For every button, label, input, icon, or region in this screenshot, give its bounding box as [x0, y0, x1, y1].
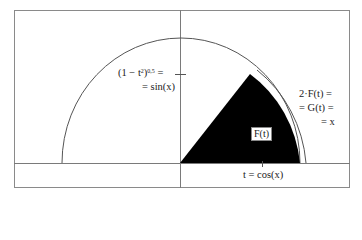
- t-label: t = cos(x): [243, 169, 283, 181]
- sin-label-line2: = sin(x): [142, 81, 175, 93]
- sin-expr-eq: =: [155, 67, 164, 78]
- sin-expr-base: (1 − t: [118, 67, 141, 78]
- area-label: F(t): [251, 127, 272, 141]
- g-label-line3: = x: [321, 116, 335, 128]
- sin-expr-exp1: 2: [141, 68, 144, 74]
- sin-expr-exp2: 0,5: [147, 68, 155, 74]
- sin-label-line1: (1 − t2)0,5 =: [118, 67, 163, 79]
- area-sector: [180, 74, 300, 163]
- g-label-line1: 2·F(t) =: [299, 88, 332, 100]
- g-label-line2: = G(t) =: [299, 102, 334, 114]
